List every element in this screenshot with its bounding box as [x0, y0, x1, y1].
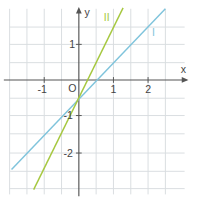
x-tick-label: 2 [145, 83, 151, 95]
y-arrow-icon [76, 7, 82, 14]
y-axis-label: y [85, 6, 91, 18]
axes [4, 10, 187, 197]
x-axis-label: x [181, 63, 187, 75]
graph: x y O -1 1 2 1 -1 -2 I II [0, 0, 200, 208]
line-II-label: II [104, 11, 110, 23]
coordinate-diagram: x y O -1 1 2 1 -1 -2 I II [0, 0, 200, 208]
y-tick-label: -1 [63, 109, 73, 121]
line-I [12, 9, 166, 170]
y-tick-label: -2 [63, 147, 73, 159]
y-tick-label: 1 [69, 38, 75, 50]
grid [10, 9, 185, 195]
line-I-label: I [152, 26, 155, 38]
x-tick-label: 1 [111, 83, 117, 95]
x-arrow-icon [182, 77, 189, 83]
x-tick-label: -1 [38, 83, 48, 95]
origin-label: O [68, 82, 76, 94]
